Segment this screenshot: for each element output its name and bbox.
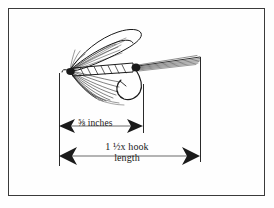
upper-dimension-label: ⅝ inches	[78, 119, 113, 129]
lower-dimension-label-line1: 1 ½x hook	[105, 141, 148, 152]
fly-diagram-illustration	[0, 0, 274, 208]
lower-dimension-label-line2: length	[114, 152, 140, 163]
wing-icon	[69, 29, 141, 71]
ribbed-body-icon	[73, 63, 141, 76]
lower-dimension-label: 1 ½x hook length	[96, 142, 158, 163]
figure-page: ⅝ inches 1 ½x hook length	[0, 0, 274, 208]
hackle-icon	[70, 50, 124, 105]
tail-icon	[138, 56, 200, 72]
